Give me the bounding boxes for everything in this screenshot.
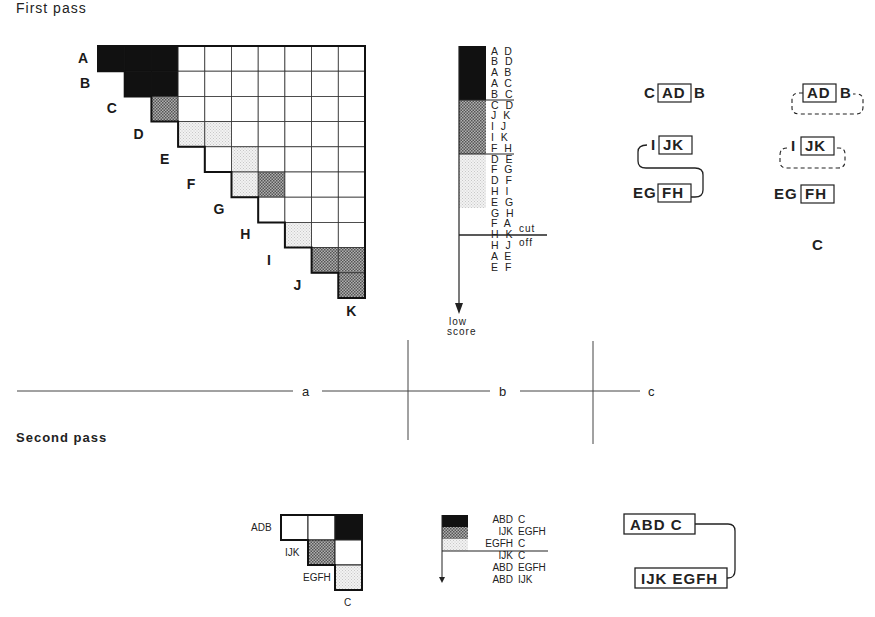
cluster-right-label: B	[840, 84, 852, 101]
ranked-pair-left: EGFH	[485, 538, 513, 549]
cluster-boxed-label: AD	[807, 84, 831, 101]
matrix-cell-dark	[308, 540, 335, 565]
cluster-boxed-label: FH	[662, 184, 684, 201]
score-bar-dark	[459, 100, 486, 154]
matrix-cell-AC	[125, 46, 152, 71]
col-label: C	[344, 597, 351, 608]
cluster-right-label: B	[694, 84, 706, 101]
row-label-C: C	[107, 100, 117, 116]
matrix-cell-HI	[285, 222, 312, 247]
matrix-cell-BD	[151, 71, 178, 96]
matrix-cell-AG	[232, 46, 259, 71]
matrix-cell-AB	[98, 46, 125, 71]
panel-label-b: b	[499, 384, 506, 399]
matrix-cell-EF	[205, 147, 232, 172]
matrix-cell-FG	[232, 172, 259, 197]
ranked-pair: E F	[491, 261, 513, 273]
matrix-cell-DE	[178, 122, 205, 147]
row-label: IJK	[285, 547, 300, 558]
final-cluster-top: ABD C	[630, 516, 683, 533]
matrix-cell-BI	[285, 71, 312, 96]
ranked-pair-left: IJK	[499, 526, 514, 537]
matrix-cell-CE	[178, 96, 205, 121]
matrix-cell-BH	[258, 71, 285, 96]
matrix-cell-EK	[338, 147, 365, 172]
cluster-left-label: I	[791, 137, 796, 154]
clusters-panel-a: C AD B I JK EG FH	[633, 84, 706, 202]
matrix-cell-DK	[338, 122, 365, 147]
matrix-cell-IJ	[312, 248, 339, 273]
clusters-panel-b: AD B I JK EG FH C	[774, 84, 863, 253]
panel-label-a: a	[302, 384, 310, 399]
arrow-down-icon	[455, 303, 463, 314]
row-label-I: I	[267, 252, 271, 268]
cut-label: cut	[519, 223, 535, 234]
arrow-down-icon	[439, 577, 445, 583]
matrix-cell-BJ	[312, 71, 339, 96]
panel-divider: a b c	[17, 340, 655, 444]
ranked-pair-left: ABD	[492, 514, 513, 525]
matrix-cell-FJ	[312, 172, 339, 197]
matrix-cell-AK	[338, 46, 365, 71]
second-pass-title: Second pass	[16, 430, 107, 445]
first-pass-title: First pass	[16, 0, 87, 16]
matrix-cell-FH	[258, 172, 285, 197]
off-label: off	[519, 237, 533, 248]
ranked-pair-right: EGFH	[518, 526, 546, 537]
matrix-cell-DG	[232, 122, 259, 147]
matrix-cell-EI	[285, 147, 312, 172]
row-label-H: H	[240, 226, 250, 242]
matrix-cell-AE	[178, 46, 205, 71]
matrix-cell-AH	[258, 46, 285, 71]
cluster-left-label: EG	[774, 185, 798, 202]
matrix-cell-GI	[285, 197, 312, 222]
matrix-cell-JK	[338, 273, 365, 298]
ranked-pair-left: ABD	[492, 574, 513, 585]
cluster-boxed-label: FH	[805, 185, 827, 202]
matrix-cell-EG	[232, 147, 259, 172]
cluster-boxed-label: JK	[663, 136, 684, 153]
matrix-cell-CG	[232, 96, 259, 121]
row-label-E: E	[160, 151, 169, 167]
first-pass-similarity-matrix: ABCDEFGHIJK	[78, 46, 365, 319]
score-bar-light	[459, 154, 486, 208]
matrix-cell-BK	[338, 71, 365, 96]
matrix-cell-CJ	[312, 96, 339, 121]
matrix-cell-AJ	[312, 46, 339, 71]
cluster-left-label: EG	[633, 184, 657, 201]
ranked-pair-right: IJK	[518, 574, 533, 585]
score-bar-black	[459, 46, 486, 100]
ranked-pair-left: IJK	[499, 550, 514, 561]
matrix-cell-light	[335, 565, 362, 590]
matrix-cell-DF	[205, 122, 232, 147]
ranked-pair-right: C	[518, 550, 525, 561]
matrix-cell-FI	[285, 172, 312, 197]
matrix-cell-FK	[338, 172, 365, 197]
ranked-pair-right: C	[518, 514, 525, 525]
second-pass-similarity-matrix: ADB IJK EGFH C	[251, 515, 362, 608]
row-label-B: B	[80, 75, 90, 91]
matrix-cell-black	[335, 515, 362, 540]
matrix-cell-GJ	[312, 197, 339, 222]
row-label-G: G	[214, 201, 225, 217]
matrix-cell-HJ	[312, 222, 339, 247]
matrix-cell-HK	[338, 222, 365, 247]
clustering-diagram: First pass Second pass ABCDEFGHIJK cut o…	[0, 0, 875, 617]
ranked-pair-left: ABD	[492, 562, 513, 573]
ranked-pair-right: EGFH	[518, 562, 546, 573]
matrix-cell-CF	[205, 96, 232, 121]
row-label-K: K	[346, 303, 356, 319]
matrix-cell-CD	[151, 96, 178, 121]
matrix-cell-DH	[258, 122, 285, 147]
cluster-boxed-label: AD	[662, 84, 686, 101]
ranked-pair-right: C	[518, 538, 525, 549]
matrix-cell-EJ	[312, 147, 339, 172]
row-label-D: D	[133, 126, 143, 142]
final-cluster-bottom: IJK EGFH	[641, 570, 718, 587]
matrix-cell-AD	[151, 46, 178, 71]
matrix-cell-GK	[338, 197, 365, 222]
matrix-cell-DI	[285, 122, 312, 147]
row-label-F: F	[187, 176, 196, 192]
final-clusters: ABD C IJK EGFH	[624, 514, 735, 588]
matrix-cell-CK	[338, 96, 365, 121]
